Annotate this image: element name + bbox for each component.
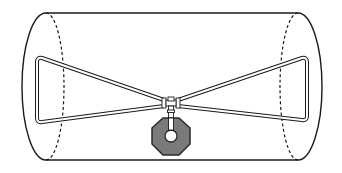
cylinder-left-inner-arc [46,13,64,160]
cylinder-right-inner-arc [280,13,298,160]
bowtie-antenna-diagram [0,0,342,173]
right-triangle-element [178,58,307,120]
octagonal-weight [152,118,190,155]
cylinder-right-outer-arc [298,13,322,160]
cylinder-left-outer-arc [22,13,46,160]
weight-hole [165,130,177,142]
left-triangle-element [37,58,164,122]
